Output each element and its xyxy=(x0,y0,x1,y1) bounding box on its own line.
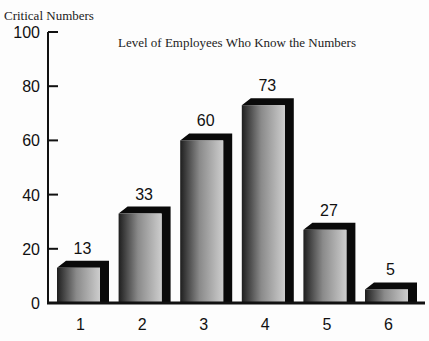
y-axis: 020406080100 xyxy=(13,24,58,312)
y-tick-label: 80 xyxy=(22,78,40,95)
bar-3: 60 xyxy=(180,112,232,303)
bar-6: 5 xyxy=(365,261,417,303)
data-label: 13 xyxy=(74,240,92,257)
bar-1: 13 xyxy=(57,240,109,303)
data-label: 5 xyxy=(386,261,395,278)
y-tick-label: 0 xyxy=(31,295,40,312)
x-tick-label: 3 xyxy=(199,316,208,333)
x-tick-label: 5 xyxy=(322,316,331,333)
data-label: 73 xyxy=(258,77,276,94)
x-tick-label: 4 xyxy=(261,316,270,333)
x-axis: 123456 xyxy=(47,303,425,333)
bar-chart: Critical Numbers Level of Employees Who … xyxy=(0,0,429,341)
y-tick-label: 60 xyxy=(22,132,40,149)
bar-4: 73 xyxy=(242,77,294,303)
chart-title: Level of Employees Who Know the Numbers xyxy=(118,35,356,50)
bar-5: 27 xyxy=(303,202,355,303)
y-axis-label: Critical Numbers xyxy=(4,8,94,23)
x-tick-label: 6 xyxy=(384,316,393,333)
x-tick-label: 1 xyxy=(76,316,85,333)
data-label: 60 xyxy=(197,112,215,129)
bar-2: 33 xyxy=(119,186,171,303)
data-label: 27 xyxy=(320,202,338,219)
y-tick-label: 20 xyxy=(22,241,40,258)
y-tick-label: 100 xyxy=(13,24,40,41)
y-tick-label: 40 xyxy=(22,187,40,204)
data-label: 33 xyxy=(135,186,153,203)
bars: 13336073275 xyxy=(57,77,417,303)
x-tick-label: 2 xyxy=(138,316,147,333)
